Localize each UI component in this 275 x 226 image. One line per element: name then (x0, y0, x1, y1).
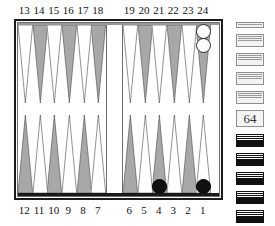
point-number-2: 2 (180, 203, 196, 217)
point-17[interactable] (77, 25, 92, 103)
bottom-point-numbers: 121110987654321 (14, 203, 223, 217)
point-23[interactable] (182, 25, 197, 103)
point-number-20: 20 (136, 3, 152, 17)
point-3[interactable] (167, 115, 182, 193)
point-number-1: 1 (195, 203, 211, 217)
point-20[interactable] (138, 25, 153, 103)
point-21[interactable] (152, 25, 167, 103)
point-number-13: 13 (16, 3, 32, 17)
tray-stack-dark-0[interactable] (236, 134, 264, 147)
point-number-10: 10 (46, 203, 62, 217)
doubling-cube[interactable]: 64 (236, 110, 264, 127)
tray-stack-light-1[interactable] (236, 34, 264, 47)
point-number-4: 4 (151, 203, 167, 217)
point-number-21: 21 (151, 3, 167, 17)
tray-stack-dark-3[interactable] (236, 191, 264, 204)
backgammon-diagram: 131415161718192021222324 121110987654321… (0, 0, 275, 226)
point-number-23: 23 (180, 3, 196, 17)
tray-stack-light-3[interactable] (236, 72, 264, 85)
tray-stack-light-2[interactable] (236, 53, 264, 66)
point-11[interactable] (33, 115, 48, 193)
point-number-18: 18 (90, 3, 106, 17)
center-bar[interactable] (106, 25, 123, 193)
point-number-24: 24 (195, 3, 211, 17)
point-number-14: 14 (31, 3, 47, 17)
board-inner-surface (17, 22, 220, 197)
tray-stack-light-4[interactable] (236, 91, 264, 104)
point-number-5: 5 (136, 203, 152, 217)
point-15[interactable] (47, 25, 62, 103)
point-number-17: 17 (75, 3, 91, 17)
top-point-numbers: 131415161718192021222324 (14, 3, 223, 17)
point-9[interactable] (62, 115, 77, 193)
point-number-16: 16 (60, 3, 76, 17)
point-16[interactable] (62, 25, 77, 103)
point-12[interactable] (18, 115, 33, 193)
side-checker-tray[interactable]: 64 (236, 22, 266, 200)
point-number-9: 9 (60, 203, 76, 217)
game-board[interactable] (14, 19, 223, 200)
point-6[interactable] (123, 115, 138, 193)
point-7[interactable] (91, 115, 106, 193)
point-number-12: 12 (16, 203, 32, 217)
point-number-7: 7 (90, 203, 106, 217)
point-22[interactable] (167, 25, 182, 103)
board-bottom-rail (18, 193, 219, 196)
point-number-15: 15 (46, 3, 62, 17)
tray-stack-dark-1[interactable] (236, 153, 264, 166)
point-8[interactable] (77, 115, 92, 193)
point-10[interactable] (47, 115, 62, 193)
tray-stack-dark-4[interactable] (236, 210, 264, 223)
point-13[interactable] (18, 25, 33, 103)
point-5[interactable] (138, 115, 153, 193)
tray-stack-dark-2[interactable] (236, 172, 264, 185)
point-number-8: 8 (75, 203, 91, 217)
point-2[interactable] (182, 115, 197, 193)
point-number-19: 19 (121, 3, 137, 17)
point-number-6: 6 (121, 203, 137, 217)
point-18[interactable] (91, 25, 106, 103)
point-14[interactable] (33, 25, 48, 103)
point-number-22: 22 (165, 3, 181, 17)
tray-stack-light-0[interactable] (236, 22, 264, 28)
point-number-3: 3 (165, 203, 181, 217)
point-number-11: 11 (31, 203, 47, 217)
point-19[interactable] (123, 25, 138, 103)
